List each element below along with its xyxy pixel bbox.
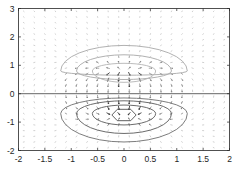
contour-line [77,101,172,134]
contour-line [77,55,172,80]
y-tick-label: -2 [7,146,15,156]
x-tick-label: -2 [15,154,23,164]
contour-line [61,98,188,142]
contour-line [112,109,136,120]
chart-canvas: -2-1.5-1-0.500.511.52 -2-10123 [0,0,235,174]
y-axis-tick-labels: -2-10123 [7,4,15,156]
x-tick-label: 1 [174,154,179,164]
x-axis-tick-labels: -2-1.5-1-0.500.511.52 [15,154,232,164]
x-tick-label: 2 [227,154,232,164]
x-tick-label: 1.5 [197,154,209,164]
y-tick-label: 0 [10,89,15,99]
x-tick-label: 0.5 [144,154,156,164]
y-tick-label: -1 [7,117,15,127]
x-tick-label: -1 [67,154,75,164]
x-tick-label: -1.5 [38,154,53,164]
x-tick-label: 0 [122,154,127,164]
x-tick-label: -0.5 [90,154,105,164]
y-tick-label: 3 [10,4,15,14]
contour-line [92,105,155,125]
y-tick-label: 1 [10,60,15,70]
y-tick-label: 2 [10,32,15,42]
contour-line [61,45,188,75]
